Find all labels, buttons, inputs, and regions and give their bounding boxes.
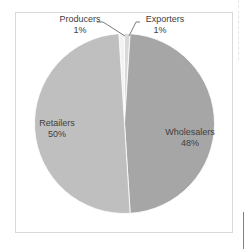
label-exporters-name: Exporters [146, 14, 185, 24]
label-wholesalers-name: Wholesalers [165, 127, 215, 137]
pie-chart: Producers 1% Exporters 1% Retailers 50% … [0, 0, 245, 249]
label-producers-name: Producers [59, 14, 101, 24]
label-producers-pct: 1% [73, 25, 86, 35]
label-wholesalers-pct: 48% [181, 138, 199, 148]
label-exporters-pct: 1% [153, 25, 166, 35]
label-retailers-name: Retailers [39, 118, 75, 128]
pie-slice-wholesalers [125, 34, 215, 214]
label-retailers-pct: 50% [48, 129, 66, 139]
